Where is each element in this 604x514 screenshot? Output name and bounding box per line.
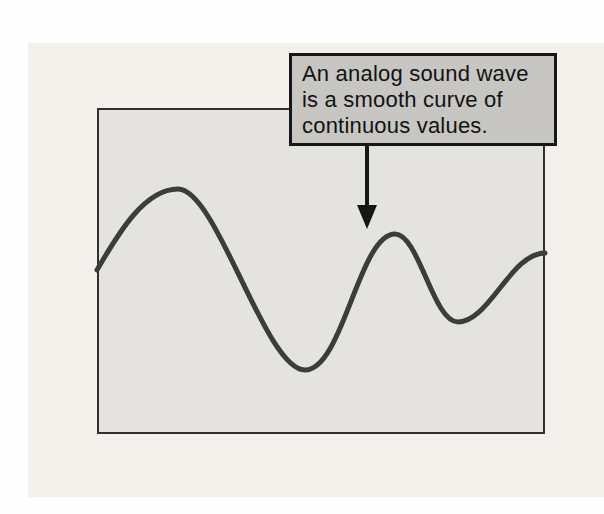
- analog-wave-curve: [97, 189, 545, 370]
- analog-wave-plot: [97, 108, 545, 434]
- arrow-shaft: [365, 145, 369, 207]
- scanned-figure-page: An analog sound wave is a smooth curve o…: [0, 0, 604, 514]
- callout-line-3: continuous values.: [302, 113, 554, 139]
- callout-text: An analog sound wave is a smooth curve o…: [292, 56, 554, 139]
- callout-box: An analog sound wave is a smooth curve o…: [289, 53, 557, 146]
- down-arrow-icon: [357, 205, 377, 229]
- callout-line-2: is a smooth curve of: [302, 87, 554, 113]
- callout-line-1: An analog sound wave: [302, 61, 554, 87]
